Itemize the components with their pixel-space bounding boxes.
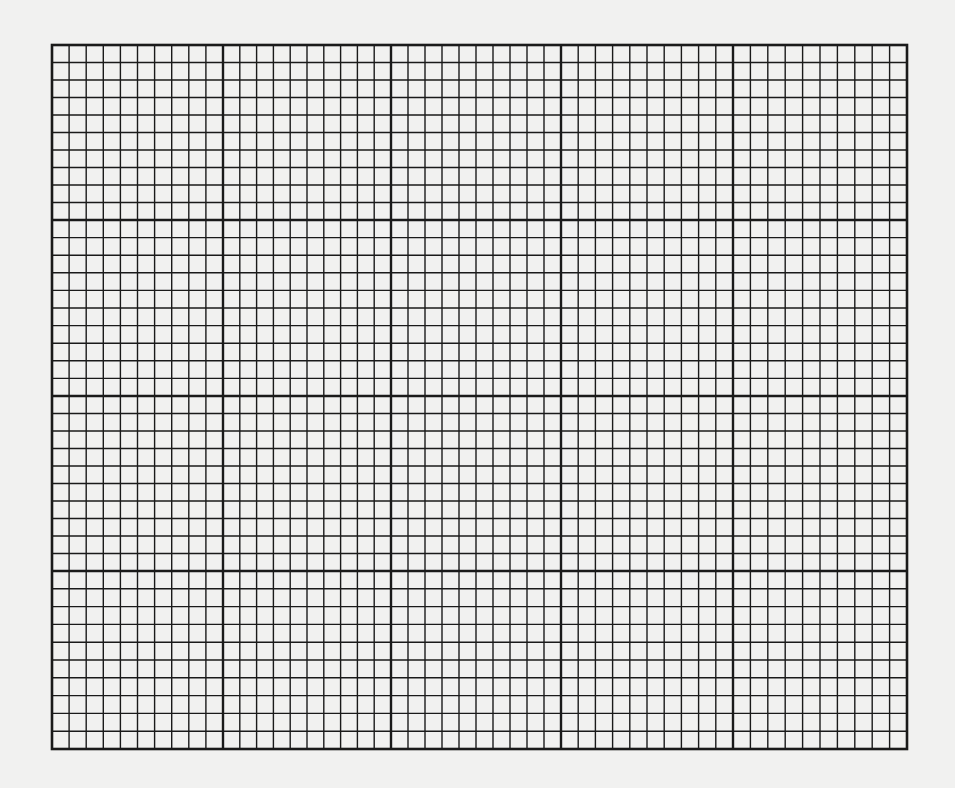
graph-paper-grid: [0, 0, 955, 788]
graph-paper-page: [0, 0, 955, 788]
